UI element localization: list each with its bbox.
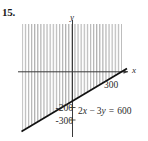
graph-svg: x y 300 -200 -300 2x−3y=600 <box>0 0 148 141</box>
equation-minus-sign: − <box>89 106 94 116</box>
equation-text: 2x−3y=600 <box>78 106 132 116</box>
y-label-neg300: -300 <box>56 116 74 126</box>
figure-container: 15. <box>0 0 148 141</box>
equation-equals-sign: = <box>109 106 114 116</box>
y-label-neg200: -200 <box>56 103 74 113</box>
x-intercept-label: 300 <box>104 80 119 90</box>
y-axis-label: y <box>69 12 74 22</box>
graph-plot-area: x y 300 -200 -300 2x−3y=600 <box>0 0 148 141</box>
x-axis-label: x <box>131 65 136 75</box>
equation-var-y: y <box>101 106 107 116</box>
equation-annotation: 2x−3y=600 <box>78 106 132 116</box>
equation-rhs-value: 600 <box>117 106 132 116</box>
equation-var-x: x <box>82 106 88 116</box>
